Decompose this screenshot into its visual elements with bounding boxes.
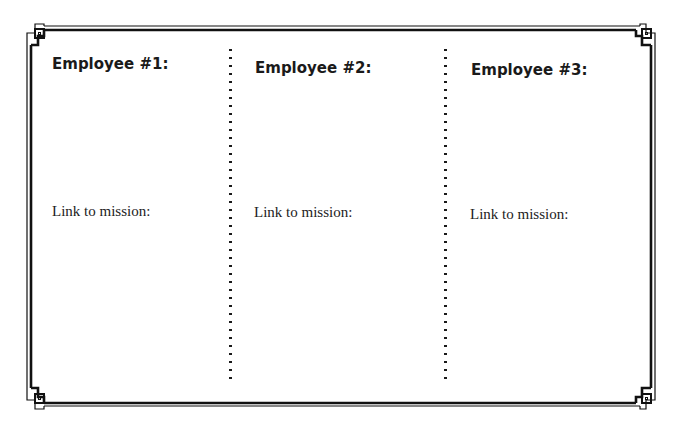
employee-1-title: Employee #1:: [52, 55, 168, 73]
column-divider-1: [229, 46, 232, 384]
employee-3-mission-label: Link to mission:: [470, 206, 568, 223]
employee-2-title: Employee #2:: [255, 59, 371, 77]
employee-1-mission-label: Link to mission:: [52, 203, 150, 220]
employee-2-mission-label: Link to mission:: [254, 204, 352, 221]
employee-3-title: Employee #3:: [471, 61, 587, 79]
column-divider-2: [444, 46, 447, 384]
